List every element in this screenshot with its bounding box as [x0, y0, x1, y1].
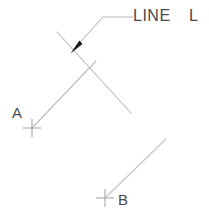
point-a-label: A: [12, 104, 22, 121]
leader-arrowhead-icon: [71, 41, 83, 54]
segment-from-point-b: [105, 139, 166, 198]
annotation-primary-text: LINE: [133, 7, 171, 24]
point-b-label: B: [118, 191, 128, 208]
leader-annotation: [71, 17, 134, 54]
segment-from-point-a: [32, 61, 96, 128]
drawing-svg: A B LINE L: [0, 0, 209, 221]
annotation-text-group: LINE L: [133, 7, 198, 24]
cad-drawing-canvas: A B LINE L: [0, 0, 209, 221]
point-a-group: A: [12, 104, 41, 137]
annotation-secondary-text: L: [189, 7, 198, 24]
segment-upper-diagonal: [57, 32, 131, 113]
geometry-lines: [32, 32, 166, 198]
leader-line: [73, 17, 133, 50]
